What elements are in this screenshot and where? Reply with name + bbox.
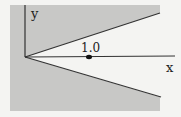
wedge-diagram: y x 1.0: [0, 0, 181, 117]
point-marker: [86, 55, 92, 59]
y-axis-label: y: [30, 6, 39, 21]
x-axis-label: x: [166, 60, 174, 75]
point-label: 1.0: [81, 41, 100, 55]
